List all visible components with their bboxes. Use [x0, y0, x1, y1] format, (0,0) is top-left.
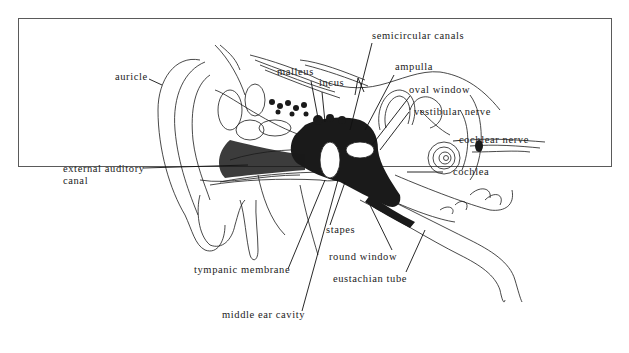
label-external-auditory-canal: external auditory canal: [63, 163, 145, 187]
label-cochlear-nerve: cochlear nerve: [459, 134, 529, 146]
label-incus: incus: [319, 77, 344, 89]
label-tympanic-membrane: tympanic membrane: [194, 264, 290, 276]
label-oval-window: oval window: [409, 84, 470, 96]
label-vestibular-nerve: vestibular nerve: [414, 106, 491, 118]
label-cochlea: cochlea: [453, 166, 489, 178]
label-semicircular-canals: semicircular canals: [372, 30, 464, 42]
label-eustachian-tube: eustachian tube: [333, 273, 407, 285]
middle-ear-dark-mass: [291, 118, 400, 207]
auricle-outline: [158, 59, 225, 251]
label-middle-ear-cavity: middle ear cavity: [222, 309, 305, 321]
label-stapes: stapes: [326, 224, 355, 236]
label-external-auditory-canal-line2: canal: [63, 175, 145, 187]
label-auricle: auricle: [115, 71, 148, 83]
label-round-window: round window: [329, 251, 397, 263]
label-malleus: malleus: [277, 66, 314, 78]
label-ampulla: ampulla: [395, 61, 433, 73]
label-external-auditory-canal-line1: external auditory: [63, 163, 145, 175]
